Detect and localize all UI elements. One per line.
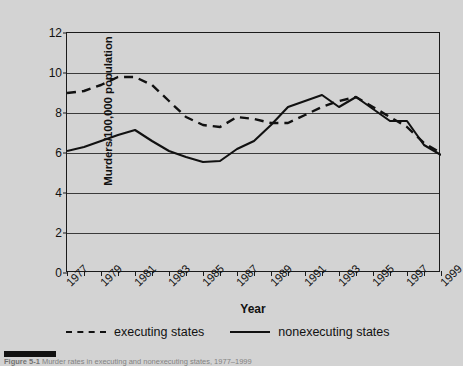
legend-label-nonexecuting-states: nonexecuting states xyxy=(278,325,389,339)
figure-caption: Figure 5-1 Murder rates in executing and… xyxy=(4,357,459,366)
chart-series-lines xyxy=(67,33,441,273)
legend-label-executing-states: executing states xyxy=(114,325,204,339)
y-tick-label: 0 xyxy=(55,266,62,280)
series-line-nonexecuting-states xyxy=(67,95,441,162)
x-axis-title: Year xyxy=(66,302,440,316)
y-tick-label: 2 xyxy=(55,226,62,240)
x-tick-label: 1999 xyxy=(438,262,463,288)
legend-item-executing-states: executing states xyxy=(66,325,204,339)
figure-caption-label: Figure 5-1 xyxy=(4,357,40,366)
chart-legend: executing states nonexecuting states xyxy=(66,325,456,339)
chart-plot-area: 024681012 197719791981198319851987198919… xyxy=(66,32,440,272)
y-tick-label: 4 xyxy=(55,186,62,200)
y-tick-label: 10 xyxy=(49,66,62,80)
legend-item-nonexecuting-states: nonexecuting states xyxy=(230,325,389,339)
y-tick-label: 8 xyxy=(55,106,62,120)
y-tick-label: 12 xyxy=(49,26,62,40)
y-tick-label: 6 xyxy=(55,146,62,160)
y-axis-title: Murders/100,000 population xyxy=(102,0,114,231)
figure-caption-body: Murder rates in executing and nonexecuti… xyxy=(42,357,252,366)
legend-dashed-line-icon xyxy=(66,331,106,333)
legend-solid-line-icon xyxy=(230,331,270,333)
